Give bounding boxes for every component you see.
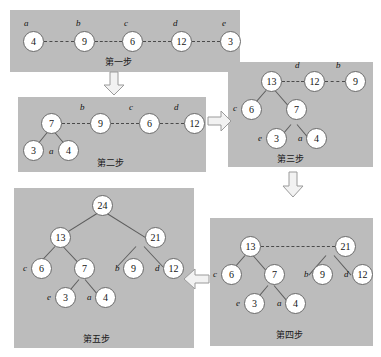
node-c: 6 [139, 113, 160, 134]
node-e: 3 [55, 287, 76, 308]
node-value: 13 [246, 241, 256, 252]
node-value: 6 [130, 36, 135, 47]
node-label-c: c [124, 18, 128, 28]
node-label-e: e [258, 133, 262, 143]
node-value: 3 [252, 298, 257, 309]
node-label-d: d [295, 60, 300, 70]
node-value: 3 [228, 36, 233, 47]
node-value: 6 [249, 104, 254, 115]
node-value: 4 [314, 133, 319, 144]
node-value: 3 [31, 145, 36, 156]
node-value: 12 [358, 269, 368, 280]
step1-link-a-b [44, 41, 74, 42]
node-label-b: b [76, 18, 81, 28]
arrow-step1-to-step2 [102, 72, 126, 96]
node-b: 9 [74, 31, 95, 52]
node-c: 6 [122, 31, 143, 52]
node-7: 7 [286, 99, 307, 120]
node-13: 13 [50, 227, 71, 248]
node-value: 6 [147, 118, 152, 129]
node-3: 3 [23, 140, 44, 161]
node-a: 4 [95, 287, 116, 308]
node-label-d: d [173, 18, 178, 28]
node-label-e: e [222, 18, 226, 28]
node-b: 9 [345, 71, 366, 92]
node-value: 9 [98, 118, 103, 129]
node-value: 13 [267, 76, 277, 87]
node-7: 7 [74, 258, 95, 279]
node-value: 7 [82, 263, 87, 274]
node-value: 9 [82, 36, 87, 47]
node-value: 9 [131, 263, 136, 274]
node-value: 3 [63, 292, 68, 303]
node-value: 7 [294, 104, 299, 115]
node-c: 6 [241, 99, 262, 120]
node-value: 6 [39, 263, 44, 274]
node-b: 9 [312, 264, 333, 285]
node-c: 6 [221, 264, 242, 285]
node-value: 21 [341, 241, 351, 252]
node-label-e: e [47, 292, 51, 302]
node-value: 13 [56, 232, 66, 243]
node-label-a: a [49, 146, 54, 156]
node-d: 12 [171, 31, 192, 52]
node-e: 3 [266, 128, 287, 149]
node-value: 12 [177, 36, 187, 47]
step1-caption: 第一步 [105, 55, 132, 68]
step3-link-13-d [282, 81, 304, 82]
step4-link-13-21 [261, 246, 335, 247]
node-value: 21 [151, 232, 161, 243]
node-label-e: e [236, 298, 240, 308]
node-d: 12 [352, 264, 373, 285]
node-e: 3 [220, 31, 241, 52]
arrow-step4-to-step5 [183, 268, 209, 292]
huffman-tree-diagram: 4 9 6 12 3 a b c d e 第一步 7 9 6 12 3 4 b … [0, 0, 381, 357]
node-value: 7 [49, 118, 54, 129]
node-a: 4 [23, 31, 44, 52]
node-value: 9 [320, 269, 325, 280]
node-label-b: b [304, 269, 309, 279]
node-label-d: d [174, 102, 179, 112]
node-7: 7 [264, 264, 285, 285]
step2-caption: 第二步 [97, 156, 124, 169]
arrow-step3-to-step4 [281, 172, 305, 198]
node-c: 6 [31, 258, 52, 279]
node-13: 13 [261, 71, 282, 92]
step4-caption: 第四步 [276, 328, 303, 341]
node-label-c: c [23, 263, 27, 273]
node-label-a: a [298, 133, 303, 143]
node-label-a: a [24, 18, 29, 28]
node-value: 4 [31, 36, 36, 47]
arrow-step2-to-step3 [208, 110, 232, 134]
node-label-b: b [336, 60, 341, 70]
node-value: 12 [310, 76, 320, 87]
node-label-c: c [213, 269, 217, 279]
step2-link-7-b [62, 123, 90, 124]
step5-caption: 第五步 [83, 332, 110, 345]
node-value: 6 [229, 269, 234, 280]
node-13: 13 [240, 236, 261, 257]
step2-link-c-d [160, 123, 184, 124]
node-b: 9 [90, 113, 111, 134]
step1-link-d-e [192, 41, 220, 42]
node-b: 9 [123, 258, 144, 279]
node-value: 4 [293, 298, 298, 309]
node-value: 24 [98, 200, 108, 211]
node-value: 9 [353, 76, 358, 87]
node-7: 7 [41, 113, 62, 134]
node-value: 4 [66, 145, 71, 156]
node-label-d: d [155, 263, 160, 273]
node-d: 12 [163, 258, 184, 279]
node-a: 4 [285, 293, 306, 314]
node-label-b: b [80, 102, 85, 112]
step2-link-b-c [111, 123, 139, 124]
node-21: 21 [335, 236, 356, 257]
node-label-a: a [87, 292, 92, 302]
node-a: 4 [58, 140, 79, 161]
node-e: 3 [244, 293, 265, 314]
node-label-c: c [129, 102, 133, 112]
step1-link-c-d [143, 41, 171, 42]
node-21: 21 [145, 227, 166, 248]
node-value: 12 [169, 263, 179, 274]
node-value: 3 [274, 133, 279, 144]
